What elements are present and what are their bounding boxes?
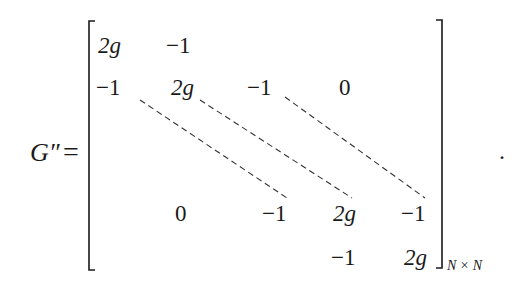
matrix-equation: G″ = 2g−1−12g−100−12g−1−12g N × N . — [0, 0, 519, 289]
matrix-entry: 0 — [175, 202, 187, 225]
matrix-entry: 2g — [98, 34, 121, 57]
matrix-entry: 2g — [404, 246, 427, 269]
matrix-entry: −1 — [96, 76, 120, 99]
dimension-subscript: N × N — [447, 258, 482, 274]
matrix-entry: 0 — [339, 76, 351, 99]
matrix-entry: 2g — [171, 76, 194, 99]
matrix-entry: −1 — [247, 76, 271, 99]
matrix-entry: −1 — [401, 202, 425, 225]
left-bracket — [89, 21, 95, 270]
dashed-diagonal — [200, 100, 352, 198]
period: . — [499, 138, 505, 165]
matrix-brackets-and-dashes — [0, 0, 519, 289]
matrix-entry: 2g — [333, 202, 356, 225]
dashed-diagonal — [140, 100, 287, 198]
matrix-entry: −1 — [331, 246, 355, 269]
matrix-entry: −1 — [166, 34, 190, 57]
right-bracket — [436, 20, 442, 268]
dashed-diagonal — [285, 97, 425, 198]
matrix-entry: −1 — [262, 202, 286, 225]
